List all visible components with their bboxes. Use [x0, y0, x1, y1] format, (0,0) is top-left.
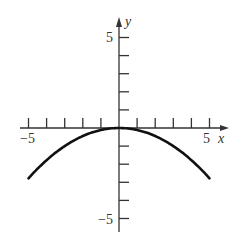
chart: −5 5 x 5 −5 y — [0, 0, 249, 242]
y-axis-arrow-icon — [116, 17, 122, 27]
y-axis-label: y — [123, 14, 132, 29]
axes — [20, 17, 229, 232]
x-min-label: −5 — [20, 131, 35, 146]
x-max-label: 5 — [203, 131, 210, 146]
y-max-label: 5 — [106, 30, 113, 45]
x-axis-label: x — [217, 131, 225, 146]
y-min-label: −5 — [98, 212, 113, 227]
